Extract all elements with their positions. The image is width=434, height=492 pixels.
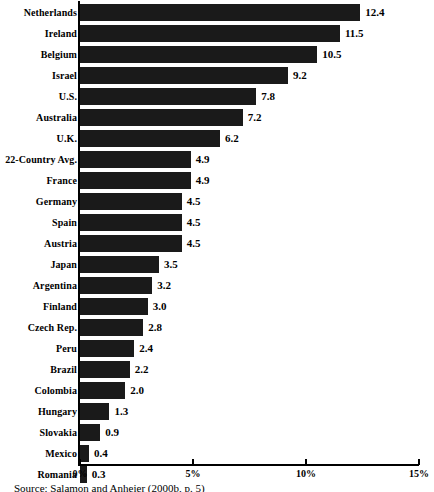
bar-value-label: 9.2 (293, 65, 307, 86)
bar (80, 298, 148, 315)
x-tick-mark (418, 459, 420, 465)
table-row: France4.9 (0, 170, 434, 191)
x-tick-label: 10% (276, 468, 336, 479)
bar-value-label: 12.4 (365, 2, 384, 23)
bar (80, 172, 191, 189)
table-row: Germany4.5 (0, 191, 434, 212)
table-row: Netherlands12.4 (0, 2, 434, 23)
bar (80, 235, 182, 252)
table-row: U.S.7.8 (0, 86, 434, 107)
table-row: Slovakia0.9 (0, 422, 434, 443)
bar (80, 382, 125, 399)
table-row: U.K.6.2 (0, 128, 434, 149)
category-label: Brazil (0, 359, 77, 380)
bar-value-label: 2.4 (139, 338, 153, 359)
bar (80, 67, 288, 84)
bar (80, 214, 182, 231)
category-label: Japan (0, 254, 77, 275)
table-row: Hungary1.3 (0, 401, 434, 422)
bar (80, 25, 340, 42)
table-row: Belgium10.5 (0, 44, 434, 65)
bar (80, 319, 143, 336)
category-label: Slovakia (0, 422, 77, 443)
bar (80, 109, 243, 126)
bar-value-label: 4.5 (187, 212, 201, 233)
bar-value-label: 7.8 (261, 86, 275, 107)
category-label: Ireland (0, 23, 77, 44)
category-label: Israel (0, 65, 77, 86)
table-row: Brazil2.2 (0, 359, 434, 380)
bar-value-label: 4.9 (196, 170, 210, 191)
category-label: Australia (0, 107, 77, 128)
category-label: Argentina (0, 275, 77, 296)
bar (80, 340, 134, 357)
bar-value-label: 2.2 (135, 359, 149, 380)
bar (80, 277, 152, 294)
table-row: Australia7.2 (0, 107, 434, 128)
table-row: Ireland11.5 (0, 23, 434, 44)
bar (80, 151, 191, 168)
bar-value-label: 3.2 (157, 275, 171, 296)
bar-value-label: 0.4 (94, 443, 108, 464)
bar (80, 256, 159, 273)
x-tick-label: 0% (50, 468, 110, 479)
bar (80, 445, 89, 462)
bar (80, 361, 130, 378)
bar (80, 88, 256, 105)
table-row: Israel9.2 (0, 65, 434, 86)
bar-value-label: 11.5 (345, 23, 364, 44)
category-label: U.K. (0, 128, 77, 149)
source-note: Source: Salamon and Anheier (2000b, p. 5… (14, 482, 205, 492)
category-label: Belgium (0, 44, 77, 65)
x-tick-mark (79, 459, 81, 465)
category-label: U.S. (0, 86, 77, 107)
bar (80, 424, 100, 441)
x-tick-label: 5% (163, 468, 223, 479)
table-row: Argentina3.2 (0, 275, 434, 296)
category-label: Colombia (0, 380, 77, 401)
bar-value-label: 1.3 (114, 401, 128, 422)
table-row: Peru2.4 (0, 338, 434, 359)
bar (80, 46, 317, 63)
category-label: 22-Country Avg. (0, 149, 77, 170)
table-row: 22-Country Avg.4.9 (0, 149, 434, 170)
x-tick-mark (192, 459, 194, 465)
category-label: Spain (0, 212, 77, 233)
bar-value-label: 10.5 (322, 44, 341, 65)
table-row: Finland3.0 (0, 296, 434, 317)
bar-chart: Netherlands12.4Ireland11.5Belgium10.5Isr… (0, 0, 434, 492)
x-axis-line (78, 464, 419, 466)
bar-value-label: 4.5 (187, 191, 201, 212)
bar-value-label: 4.9 (196, 149, 210, 170)
x-tick-mark (305, 459, 307, 465)
bar-value-label: 2.8 (148, 317, 162, 338)
y-axis-line (78, 1, 80, 464)
category-label: Netherlands (0, 2, 77, 23)
category-label: Peru (0, 338, 77, 359)
category-label: Germany (0, 191, 77, 212)
table-row: Austria4.5 (0, 233, 434, 254)
category-label: Austria (0, 233, 77, 254)
bar (80, 4, 360, 21)
table-row: Colombia2.0 (0, 380, 434, 401)
bar (80, 403, 109, 420)
bar-value-label: 2.0 (130, 380, 144, 401)
table-row: Mexico0.4 (0, 443, 434, 464)
category-label: Mexico (0, 443, 77, 464)
bar-value-label: 6.2 (225, 128, 239, 149)
table-row: Japan3.5 (0, 254, 434, 275)
bar-value-label: 3.5 (164, 254, 178, 275)
bar-value-label: 4.5 (187, 233, 201, 254)
category-label: Hungary (0, 401, 77, 422)
table-row: Czech Rep.2.8 (0, 317, 434, 338)
bar-value-label: 7.2 (248, 107, 262, 128)
x-tick-label: 15% (389, 468, 434, 479)
bar (80, 130, 220, 147)
bar-value-label: 3.0 (153, 296, 167, 317)
table-row: Spain4.5 (0, 212, 434, 233)
bar (80, 193, 182, 210)
category-label: Finland (0, 296, 77, 317)
category-label: Czech Rep. (0, 317, 77, 338)
category-label: France (0, 170, 77, 191)
bar-value-label: 0.9 (105, 422, 119, 443)
